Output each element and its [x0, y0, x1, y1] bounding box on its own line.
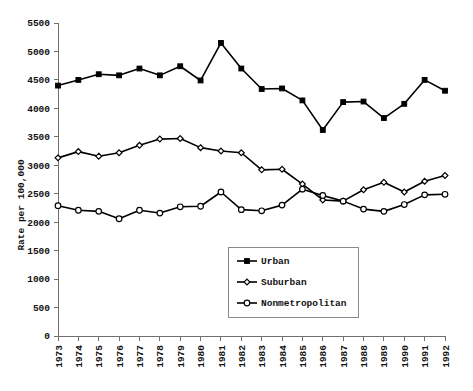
data-point: [239, 66, 244, 71]
data-point: [341, 100, 346, 105]
data-point: [55, 203, 61, 209]
x-axis-tick-label: 1992: [441, 345, 452, 368]
series-line-nonmetropolitan: [58, 189, 445, 219]
y-axis-tick-label: 3500: [27, 132, 50, 143]
data-point: [96, 72, 101, 77]
x-axis-tick-label: 1985: [298, 345, 309, 368]
y-axis-tick-label: 5500: [27, 18, 50, 29]
data-point: [402, 101, 407, 106]
x-axis-tick-label: 1979: [176, 345, 187, 368]
data-point: [55, 155, 61, 161]
y-axis-tick-label: 2000: [27, 218, 50, 229]
x-axis-tick-label: 1978: [155, 345, 166, 368]
data-point: [239, 207, 245, 213]
data-point: [259, 87, 264, 92]
y-axis-tick-label: 5000: [27, 47, 50, 58]
data-point: [137, 207, 143, 213]
y-axis-tick-label: 4500: [27, 75, 50, 86]
data-point: [361, 206, 367, 212]
data-point: [320, 128, 325, 133]
data-point: [442, 173, 448, 179]
data-point: [198, 145, 204, 151]
data-point: [116, 150, 122, 156]
data-point: [76, 207, 82, 213]
x-axis-tick-label: 1974: [74, 345, 85, 368]
y-axis-title: Rate per 100,000: [16, 159, 27, 251]
x-axis-tick-label: 1977: [135, 345, 146, 368]
data-point: [96, 153, 102, 159]
data-point: [117, 73, 122, 78]
data-point: [361, 99, 366, 104]
data-point: [279, 202, 285, 208]
x-axis-tick-label: 1988: [359, 345, 370, 368]
data-point: [422, 78, 427, 83]
data-point: [381, 179, 387, 185]
y-axis-tick-label: 1000: [27, 274, 50, 285]
data-point: [75, 149, 81, 155]
x-axis-tick-label: 1983: [257, 345, 268, 368]
data-point: [401, 202, 407, 208]
x-axis-tick-label: 1982: [237, 345, 248, 368]
y-axis-tick-label: 2500: [27, 189, 50, 200]
data-point: [76, 78, 81, 83]
data-point: [259, 208, 265, 214]
data-point: [116, 216, 122, 222]
data-point: [381, 209, 387, 215]
data-point: [178, 64, 183, 69]
data-point: [443, 88, 448, 93]
series-suburban: [55, 136, 448, 204]
y-axis: 0500100015002000250030003500400045005000…: [27, 18, 59, 342]
data-point: [137, 142, 143, 148]
data-point: [56, 83, 61, 88]
x-axis-tick-label: 1975: [94, 345, 105, 368]
data-point: [280, 86, 285, 91]
data-point: [137, 66, 142, 71]
x-axis-tick-label: 1973: [54, 345, 65, 368]
data-point: [300, 186, 306, 192]
data-point: [320, 193, 326, 199]
series-line-urban: [58, 43, 445, 130]
legend-marker-icon: [244, 300, 250, 306]
data-point: [219, 41, 224, 46]
data-point: [157, 210, 163, 216]
x-axis-tick-label: 1987: [339, 345, 350, 368]
y-axis-tick-label: 1500: [27, 246, 50, 257]
series-urban: [56, 41, 448, 133]
data-point: [157, 136, 163, 142]
x-axis-tick-label: 1989: [379, 345, 390, 368]
y-axis-tick-label: 500: [33, 303, 50, 314]
data-point: [198, 203, 204, 209]
legend-marker-icon: [245, 259, 250, 264]
x-axis-tick-label: 1990: [400, 345, 411, 368]
chart-svg: 0500100015002000250030003500400045005000…: [0, 0, 473, 391]
series-line-suburban: [58, 139, 445, 202]
y-axis-tick-label: 4000: [27, 104, 50, 115]
data-point: [218, 148, 224, 154]
line-chart: 0500100015002000250030003500400045005000…: [0, 0, 473, 391]
data-point: [177, 204, 183, 210]
data-point: [198, 78, 203, 83]
series-nonmetropolitan: [55, 186, 448, 221]
series-layer: [55, 41, 448, 222]
legend-entry-label: Nonmetropolitan: [261, 298, 347, 309]
data-point: [381, 116, 386, 121]
x-axis-tick-label: 1986: [318, 345, 329, 368]
x-axis: 1973197419751976197719781979198019811982…: [54, 336, 452, 368]
data-point: [218, 189, 224, 195]
chart-legend: UrbanSuburbanNonmetropolitan: [228, 247, 358, 317]
y-axis-tick-label: 3000: [27, 161, 50, 172]
data-point: [422, 178, 428, 184]
x-axis-tick-label: 1984: [278, 345, 289, 368]
data-point: [401, 189, 407, 195]
data-point: [96, 209, 102, 215]
data-point: [300, 98, 305, 103]
data-point: [177, 136, 183, 142]
legend-entry-label: Urban: [261, 256, 290, 267]
x-axis-tick-label: 1980: [196, 345, 207, 368]
x-axis-tick-label: 1976: [115, 345, 126, 368]
data-point: [442, 191, 448, 197]
data-point: [422, 192, 428, 198]
x-axis-tick-label: 1981: [217, 345, 228, 368]
data-point: [340, 198, 346, 204]
y-axis-tick-label: 0: [44, 331, 50, 342]
